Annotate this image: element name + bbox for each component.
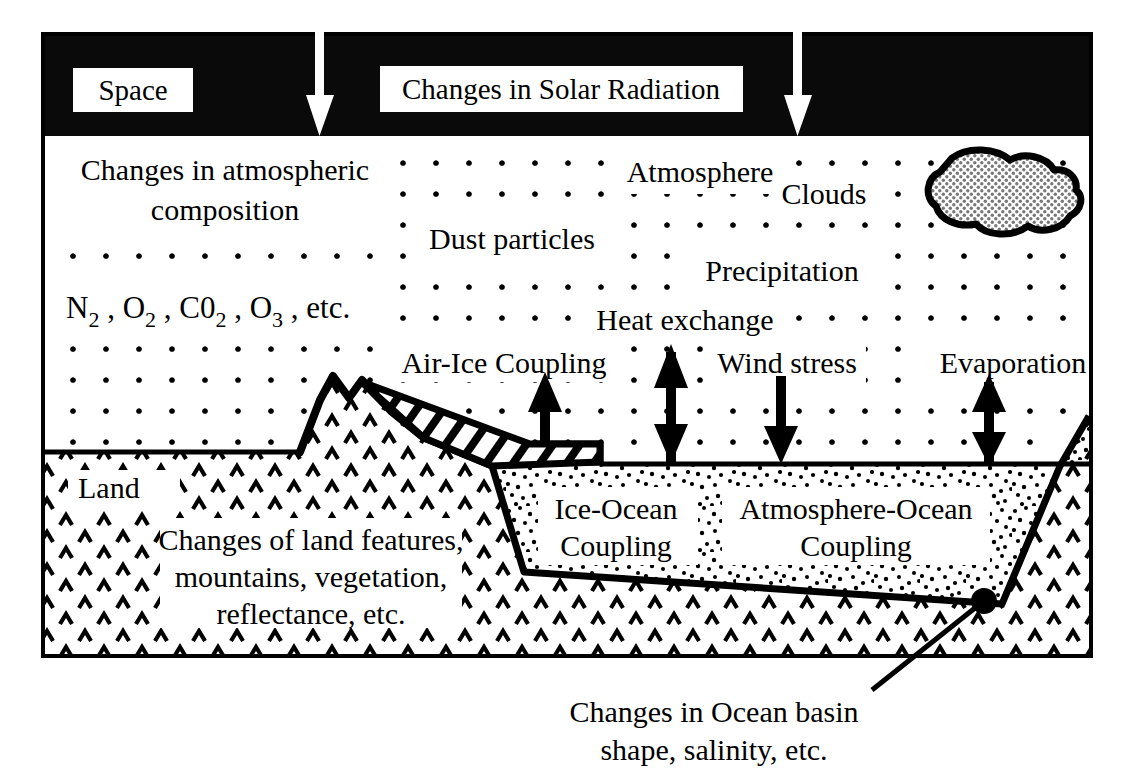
- air-ice-coupling-label: Air-Ice Coupling: [401, 346, 606, 379]
- dust-particles-label: Dust particles: [429, 222, 595, 255]
- solar-radiation-label-text: Changes in Solar Radiation: [402, 73, 721, 105]
- space-label: Space: [73, 68, 193, 112]
- solar-radiation-label: Changes in Solar Radiation: [380, 66, 743, 112]
- land-changes-line3: reflectance, etc.: [216, 597, 405, 630]
- ocean-basin-caption-line2: shape, salinity, etc.: [600, 733, 827, 766]
- wind-stress-label: Wind stress: [717, 346, 857, 379]
- ice-ocean-coupling-line2: Coupling: [560, 529, 672, 562]
- atmosphere-ocean-coupling-line1: Atmosphere-Ocean: [739, 492, 972, 525]
- atmosphere-label: Atmosphere: [627, 155, 774, 188]
- precipitation-label: Precipitation: [705, 254, 858, 287]
- ice-ocean-coupling-line1: Ice-Ocean: [554, 492, 677, 525]
- atmosphere-ocean-coupling-line2: Coupling: [800, 529, 912, 562]
- space-label-text: Space: [98, 74, 167, 106]
- land-changes-line1: Changes of land features,: [159, 523, 464, 556]
- heat-exchange-label: Heat exchange: [596, 303, 773, 336]
- ocean-basin-caption-line1: Changes in Ocean basin: [569, 695, 858, 728]
- gas-n2-base: N: [66, 290, 88, 325]
- land-label: Land: [78, 471, 140, 504]
- gas-n2-sub: 2: [88, 307, 99, 332]
- climate-system-diagram: Space Changes in Solar Radiation Changes…: [0, 0, 1135, 776]
- evaporation-label: Evaporation: [940, 346, 1087, 379]
- land-changes-line2: mountains, vegetation,: [175, 560, 447, 593]
- clouds-label: Clouds: [781, 177, 866, 210]
- atmospheric-composition-line1: Changes in atmospheric: [81, 153, 369, 186]
- atmospheric-composition-line2: composition: [151, 193, 299, 226]
